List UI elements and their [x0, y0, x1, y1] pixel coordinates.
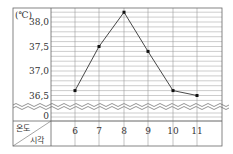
data-point	[172, 89, 175, 92]
x-tick-label: 7	[96, 126, 102, 136]
x-tick-label: 9	[145, 126, 151, 136]
data-point	[196, 94, 199, 97]
data-point	[98, 45, 101, 48]
x-tick-label: 6	[72, 126, 78, 136]
y-axis-title: 온도	[16, 124, 30, 133]
y-tick-label: 37,0	[29, 66, 49, 76]
x-tick-label: 11	[191, 126, 202, 136]
data-point	[147, 50, 150, 53]
y-tick-label: 0	[43, 111, 49, 121]
data-point	[123, 11, 126, 14]
data-point	[74, 89, 77, 92]
y-tick-label: 36,5	[29, 91, 49, 101]
x-tick-label: 8	[121, 126, 127, 136]
y-tick-label: 37,5	[29, 42, 49, 52]
x-tick-label: 10	[167, 126, 179, 136]
data-line	[75, 12, 197, 95]
line-chart: (℃)38,037,537,036,50온도시각67891011	[0, 0, 233, 154]
x-axis-title: 시각	[30, 135, 45, 145]
y-tick-label: 38,0	[29, 17, 49, 27]
